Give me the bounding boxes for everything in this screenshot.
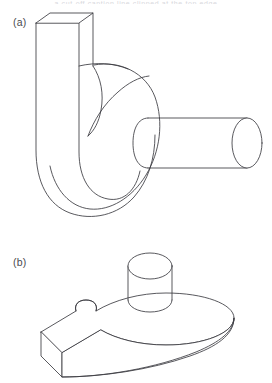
part-b-teardrop-plate (41, 253, 234, 377)
part-a-boss-far-end-ellipse (232, 118, 262, 168)
figure-root: a cut-off caption line clipped at the to… (0, 0, 272, 383)
technical-line-drawing (0, 0, 272, 383)
figure-label-a: (a) (13, 16, 26, 28)
part-a-arm-top-face (36, 13, 93, 23)
figure-label-b: (b) (13, 256, 26, 268)
part-b-boss-top-ellipse (128, 253, 172, 279)
part-a-hook-bracket (36, 13, 262, 216)
part-a-disc-head (50, 64, 160, 209)
